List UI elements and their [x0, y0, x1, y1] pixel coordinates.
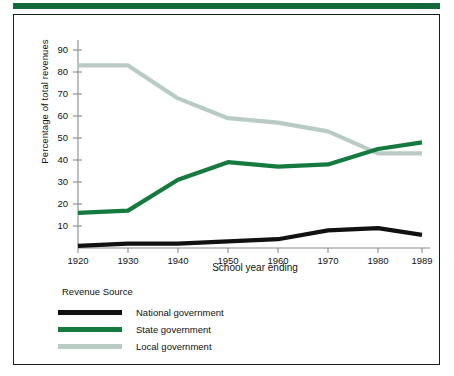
y-tick-label: 10: [44, 220, 68, 231]
legend-entry: National government: [58, 304, 224, 321]
legend-color-swatch: [58, 327, 122, 332]
x-tick-label: 1930: [108, 255, 148, 266]
x-tick-label: 1950: [208, 255, 248, 266]
legend-entry: State government: [58, 321, 224, 338]
y-tick-label: 20: [44, 198, 68, 209]
x-tick-label: 1980: [358, 255, 398, 266]
legend-entry-group: National governmentState governmentLocal…: [58, 304, 224, 355]
y-tick-label: 80: [44, 66, 68, 77]
top-accent-rule: [13, 3, 440, 9]
y-tick-label: 30: [44, 176, 68, 187]
legend-entry: Local government: [58, 338, 224, 355]
legend-color-swatch: [58, 310, 122, 315]
legend-title: Revenue Source: [58, 286, 224, 297]
y-tick-label: 70: [44, 88, 68, 99]
legend-entry-label: Local government: [136, 341, 212, 352]
x-tick-label: 1989: [402, 255, 442, 266]
y-tick-label: 40: [44, 154, 68, 165]
x-tick-label: 1970: [308, 255, 348, 266]
y-tick-label: 50: [44, 132, 68, 143]
figure-root: Percentage of total revenues School year…: [0, 0, 454, 376]
legend-entry-label: State government: [136, 324, 211, 335]
chart-legend: Revenue Source National governmentState …: [58, 286, 224, 355]
x-tick-label: 1920: [58, 255, 98, 266]
x-tick-label: 1960: [258, 255, 298, 266]
legend-color-swatch: [58, 344, 122, 349]
x-tick-label: 1940: [158, 255, 198, 266]
legend-entry-label: National government: [136, 307, 224, 318]
y-tick-label: 60: [44, 110, 68, 121]
y-tick-label: 90: [44, 44, 68, 55]
